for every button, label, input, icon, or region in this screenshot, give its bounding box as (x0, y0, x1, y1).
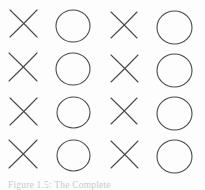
grid-cell-circle-r3c4 (153, 92, 196, 135)
grid-cell-cross-r2c3 (107, 51, 142, 86)
symbol-grid (0, 0, 205, 176)
grid-cell-cross-r4c3 (107, 137, 142, 172)
circle-stroke (57, 139, 90, 170)
circle-stroke (157, 97, 192, 130)
circle-stroke (56, 10, 90, 42)
grid-cell-circle-r1c4 (153, 6, 196, 49)
circle-stroke (157, 11, 192, 44)
grid-cell-circle-r1c2 (52, 5, 94, 47)
circle-stroke (56, 53, 90, 85)
grid-cell-cross-r3c3 (107, 94, 141, 128)
grid-cell-cross-r3c1 (6, 94, 41, 129)
grid-cell-cross-r4c1 (5, 136, 41, 172)
figure-caption: Figure 1.5: The Complete (8, 180, 198, 190)
circle-stroke (57, 96, 90, 127)
grid-cell-circle-r2c4 (153, 49, 196, 92)
grid-cell-circle-r4c2 (53, 135, 94, 176)
figure-container: Figure 1.5: The Complete (0, 0, 205, 190)
grid-cell-circle-r3c2 (53, 92, 94, 133)
grid-cell-circle-r2c2 (52, 48, 94, 90)
circle-stroke (157, 54, 192, 87)
circle-stroke (157, 140, 192, 173)
grid-cell-circle-r4c4 (153, 135, 196, 178)
grid-cell-cross-r2c1 (5, 49, 41, 85)
grid-cell-cross-r1c1 (6, 6, 41, 41)
grid-cell-cross-r1c3 (107, 8, 141, 42)
